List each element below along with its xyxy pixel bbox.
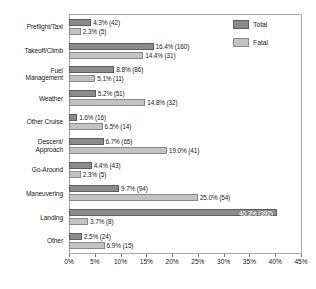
bar-value-label: 14.8% (32): [147, 99, 177, 106]
bar-row-fatal: 3.7% (8): [69, 218, 301, 225]
bar-value-label: 40.3% (392): [239, 210, 273, 217]
bar-value-label: 3.7% (8): [90, 218, 113, 225]
bar-value-label: 2.5% (24): [84, 233, 111, 240]
x-axis-tick-label: 35%: [243, 258, 256, 265]
bar-row-total: 4.4% (43): [69, 162, 301, 169]
bar-row-total: 5.2% (51): [69, 90, 301, 97]
bar-row-fatal: 2.3% (5): [69, 171, 301, 178]
x-axis-tick: [198, 254, 199, 257]
bar-total-3: [69, 66, 114, 73]
x-axis-tick-label: 25%: [191, 258, 204, 265]
bar-group-10: 2.5% (24)6.9% (15): [69, 229, 301, 253]
x-axis-tick-label: 10%: [114, 258, 127, 265]
bar-group-6: 6.7% (65)19.0% (41): [69, 134, 301, 158]
x-axis-tick-label: 30%: [217, 258, 230, 265]
bar-fatal-10: [69, 242, 105, 249]
x-axis-tick: [172, 254, 173, 257]
bar-total-6: [69, 138, 104, 145]
y-axis-label-4: Weather: [39, 95, 63, 103]
x-axis-tick-label: 40%: [269, 258, 282, 265]
legend-item-total: Total: [233, 20, 295, 29]
bar-value-label: 4.3% (42): [93, 19, 120, 26]
bar-chart: Preflight/TaxiTakeoff/ClimbFuel Manageme…: [0, 0, 316, 289]
bar-fatal-2: [69, 52, 143, 59]
legend-swatch-total: [233, 20, 249, 29]
y-axis-label-1: Preflight/Taxi: [27, 23, 63, 31]
bar-value-label: 2.3% (5): [83, 171, 106, 178]
bar-value-label: 6.9% (15): [107, 242, 134, 249]
bar-fatal-7: [69, 171, 81, 178]
y-axis-category-labels: Preflight/TaxiTakeoff/ClimbFuel Manageme…: [0, 15, 66, 253]
bar-row-fatal: 25.0% (54): [69, 194, 301, 201]
x-axis-tick-label: 5%: [90, 258, 100, 265]
bar-value-label: 5.1% (11): [97, 75, 123, 82]
bar-group-8: 9.7% (94)25.0% (54): [69, 182, 301, 206]
x-axis-tick-label: 20%: [166, 258, 179, 265]
bar-value-label: 4.4% (43): [94, 162, 121, 169]
bar-fatal-6: [69, 147, 167, 154]
bar-value-label: 16.4% (160): [156, 43, 190, 50]
bar-row-fatal: 19.0% (41): [69, 147, 301, 154]
bar-value-label: 8.8% (86): [116, 66, 143, 73]
y-axis-label-5: Other Cruise: [27, 118, 63, 126]
bar-value-label: 25.0% (54): [200, 194, 230, 201]
x-axis-tick: [121, 254, 122, 257]
x-axis-tick: [249, 254, 250, 257]
bar-fatal-1: [69, 28, 81, 35]
bar-value-label: 2.3% (5): [83, 28, 106, 35]
bar-fatal-4: [69, 99, 145, 106]
bar-total-10: [69, 233, 82, 240]
bar-group-9: 40.3% (392)3.7% (8): [69, 205, 301, 229]
bar-value-label: 6.5% (14): [105, 123, 132, 130]
bar-row-fatal: 6.9% (15): [69, 242, 301, 249]
bar-row-total: 1.6% (16): [69, 114, 301, 121]
x-axis-tick-label: 0%: [64, 258, 74, 265]
bar-fatal-5: [69, 123, 103, 130]
bar-row-total: 9.7% (94): [69, 185, 301, 192]
bar-total-2: [69, 43, 154, 50]
bar-value-label: 14.4% (31): [145, 52, 175, 59]
y-axis-label-9: Landing: [40, 214, 63, 222]
bar-total-5: [69, 114, 77, 121]
bar-row-total: 40.3% (392): [69, 209, 301, 216]
x-axis-tick-label: 15%: [140, 258, 153, 265]
legend-swatch-fatal: [233, 38, 249, 47]
bar-row-fatal: 6.5% (14): [69, 123, 301, 130]
x-axis-tick: [69, 254, 70, 257]
y-axis-label-2: Takeoff/Climb: [24, 47, 63, 55]
bar-group-3: 8.8% (86)5.1% (11): [69, 63, 301, 87]
bar-value-label: 6.7% (65): [106, 138, 133, 145]
x-axis-tick: [224, 254, 225, 257]
bar-group-5: 1.6% (16)6.5% (14): [69, 110, 301, 134]
y-axis-label-7: Go-Around: [32, 166, 63, 174]
bar-fatal-9: [69, 218, 88, 225]
bar-total-1: [69, 19, 91, 26]
bar-total-9: 40.3% (392): [69, 209, 277, 216]
bar-row-total: 8.8% (86): [69, 66, 301, 73]
bar-total-7: [69, 162, 92, 169]
y-axis-label-10: Other: [47, 237, 63, 245]
bar-row-fatal: 14.8% (32): [69, 99, 301, 106]
y-axis-label-8: Maneuvering: [26, 190, 63, 198]
legend-item-fatal: Fatal: [233, 38, 295, 47]
y-axis-label-3: Fuel Management: [26, 67, 64, 82]
bar-fatal-8: [69, 194, 198, 201]
bar-row-fatal: 5.1% (11): [69, 75, 301, 82]
bar-total-8: [69, 185, 119, 192]
bar-row-total: 2.5% (24): [69, 233, 301, 240]
x-axis-tick: [146, 254, 147, 257]
bar-group-4: 5.2% (51)14.8% (32): [69, 86, 301, 110]
y-axis-label-6: Descent/ Approach: [36, 138, 63, 153]
bar-value-label: 5.2% (51): [98, 90, 125, 97]
bar-total-4: [69, 90, 96, 97]
x-axis-tick: [301, 254, 302, 257]
legend-label: Total: [253, 21, 267, 28]
bar-fatal-3: [69, 75, 95, 82]
x-axis: 0%5%10%15%20%25%30%35%40%45%: [69, 254, 302, 272]
chart-legend: TotalFatal: [231, 18, 297, 58]
x-axis-tick: [275, 254, 276, 257]
x-axis-tick: [95, 254, 96, 257]
bar-value-label: 9.7% (94): [121, 185, 148, 192]
bar-value-label: 19.0% (41): [169, 147, 199, 154]
bar-group-7: 4.4% (43)2.3% (5): [69, 158, 301, 182]
